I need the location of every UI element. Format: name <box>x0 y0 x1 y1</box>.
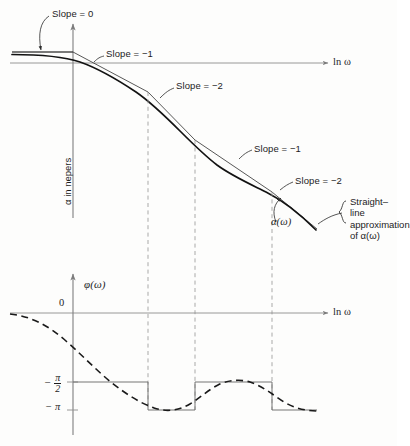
half-pi-minus-sign: − <box>44 376 52 388</box>
caption-line-1: Straight–line <box>350 196 388 218</box>
bottom-tick-half-pi: − π 2 <box>44 373 61 394</box>
half-pi-numerator: π <box>54 373 61 384</box>
annotation-slope-0: Slope = 0 <box>52 8 93 19</box>
caption-line-3: of α(ω) <box>350 230 380 241</box>
phase-step-approximation <box>73 382 317 410</box>
corner-frequency-dashed-lines <box>148 92 272 410</box>
annotation-slope-neg1-b: Slope = −1 <box>254 143 301 154</box>
caption-line-2: approximation <box>350 219 410 230</box>
annotation-slope-neg2-b: Slope = −2 <box>295 175 342 186</box>
annotation-alpha-omega: α(ω) <box>271 216 291 228</box>
straight-line-approximation-curve <box>12 52 317 229</box>
straight-line-approximation-brace <box>339 201 346 223</box>
half-pi-fraction: π 2 <box>54 373 61 394</box>
annotation-slope-neg2-a: Slope = −2 <box>176 80 223 91</box>
bottom-x-axis-label: ln ω <box>333 306 351 318</box>
phi-omega-curve <box>10 314 317 411</box>
half-pi-denominator: 2 <box>54 384 61 394</box>
top-y-axis-title: α in nepers <box>62 158 73 205</box>
straight-line-approximation-caption: Straight–line approximation of α(ω) <box>350 196 396 242</box>
top-x-axis-label: ln ω <box>333 56 351 68</box>
slope-leader-lines <box>40 16 342 224</box>
bottom-y-axis-label: φ(ω) <box>84 278 106 291</box>
annotation-slope-neg1-a: Slope = −1 <box>106 48 153 59</box>
bottom-tick-pi: − π <box>45 401 60 413</box>
bottom-tick-zero: 0 <box>59 297 64 309</box>
